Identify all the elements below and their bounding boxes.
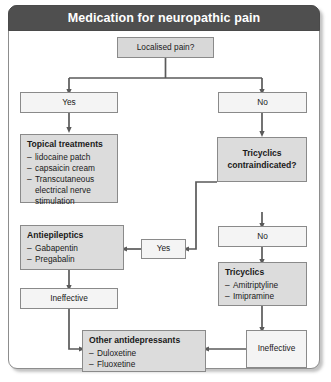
dash-icon: – [89,359,94,370]
node-no-mid[interactable]: No [218,226,307,247]
node-no-right[interactable]: No [218,92,307,113]
list-item: –Fluoxetine [89,359,200,370]
list-item: –Amitriptyline [225,280,301,291]
node-localised-pain[interactable]: Localised pain? [117,37,214,58]
dash-icon: – [27,254,32,265]
node-antiepileptics-heading: Antiepileptics [27,230,118,242]
node-yes-mid-label: Yes [157,243,171,254]
node-yes-left-label: Yes [62,97,76,108]
dash-icon: – [225,280,230,291]
node-tricyclics-contraindicated[interactable]: Tricyclics contraindicated? [217,137,307,182]
node-yes-left[interactable]: Yes [20,92,118,113]
node-no-mid-label: No [257,231,268,242]
dash-icon: – [27,163,32,174]
node-other-heading: Other antidepressants [89,335,200,347]
list-item: –Duloxetine [89,348,200,359]
node-antiepileptics-list: –Gabapentin –Pregabalin [27,243,118,265]
node-tricyclics-heading: Tricyclics [225,267,301,279]
node-yes-mid[interactable]: Yes [141,239,186,259]
node-ineffective-left-label: Ineffective [50,293,88,304]
node-topical-heading: Topical treatments [27,139,112,151]
edge-ineffective-left-to-other [69,309,82,349]
node-ineffective-right-label: Ineffective [258,343,296,354]
node-topical-list: –lidocaine patch –capsaicin cream –Trans… [27,152,112,208]
dash-icon: – [27,243,32,254]
node-no-right-label: No [257,97,268,108]
list-item: –capsaicin cream [27,163,112,174]
list-item: –Imipramine [225,291,301,302]
dash-icon: – [225,291,230,302]
dash-icon: – [27,174,32,185]
node-other-antidepressants[interactable]: Other antidepressants –Duloxetine –Fluox… [82,330,206,372]
node-other-list: –Duloxetine –Fluoxetine [89,348,200,370]
node-antiepileptics[interactable]: Antiepileptics –Gabapentin –Pregabalin [20,225,124,270]
node-ineffective-left[interactable]: Ineffective [20,288,118,309]
dash-icon: – [27,152,32,163]
list-item: –Transcutaneous electrical nerve stimula… [27,174,112,207]
node-ineffective-right[interactable]: Ineffective [246,330,307,368]
dash-icon: – [89,348,94,359]
node-tricyclics-ci-label: Tricyclics contraindicated? [227,148,296,171]
list-item: –Pregabalin [27,254,118,265]
node-tricyclics-list: –Amitriptyline –Imipramine [225,280,301,302]
node-topical-treatments[interactable]: Topical treatments –lidocaine patch –cap… [20,134,118,203]
list-item: –lidocaine patch [27,152,112,163]
list-item: –Gabapentin [27,243,118,254]
node-tricyclics[interactable]: Tricyclics –Amitriptyline –Imipramine [218,262,307,306]
edge-ci-yes-route [186,182,217,249]
flowchart-page: Medication for neuropathic pain [0,0,331,382]
node-localised-pain-label: Localised pain? [137,42,195,53]
